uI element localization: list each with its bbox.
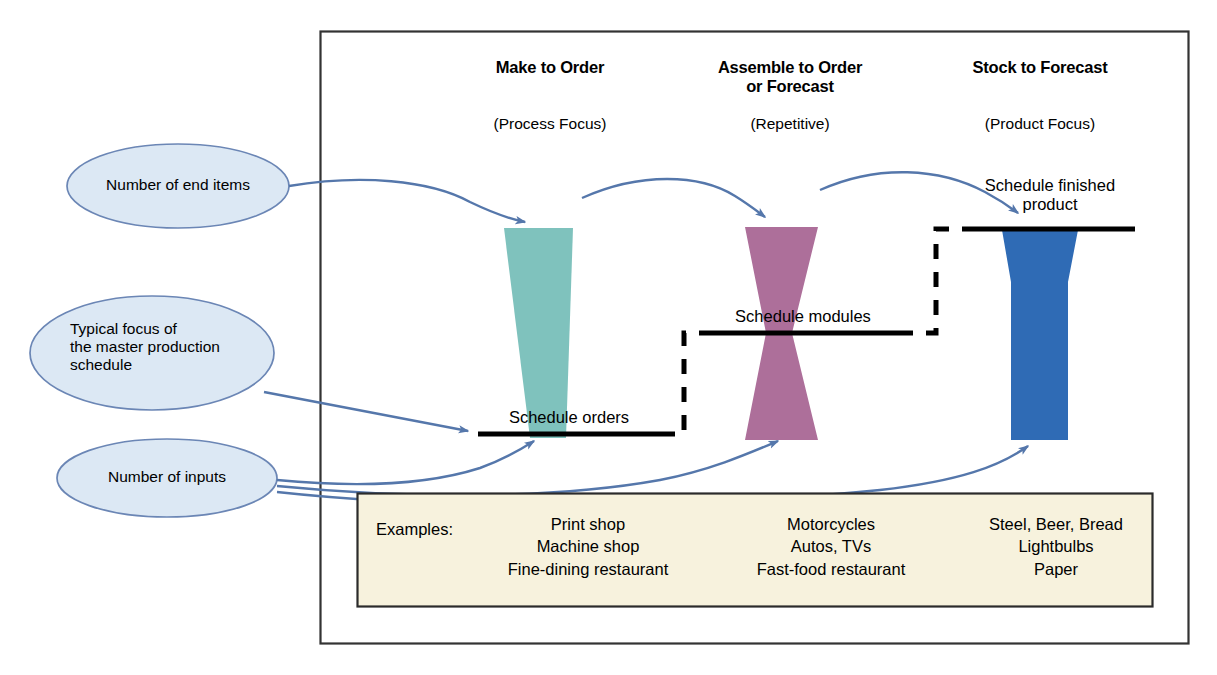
- shape-make-to-order-funnel: [504, 228, 573, 438]
- examples-column-stock-to-forecast: Steel, Beer, Bread Lightbulbs Paper: [960, 513, 1152, 580]
- callout-label-end-items: Number of end items: [68, 176, 288, 194]
- examples-column-make-to-order: Print shop Machine shop Fine-dining rest…: [472, 513, 704, 580]
- shape-stock-to-forecast-funnel: [1002, 230, 1078, 440]
- arrow-make-to-order-to-assemble: [582, 179, 765, 217]
- column-subtitle-assemble-to-order: (Repetitive): [690, 115, 890, 133]
- label-schedule-finished-product: Schedule finished product: [955, 176, 1145, 214]
- arrow-inputs-to-assemble: [277, 441, 778, 495]
- arrow-mps-focus-to-schedule-orders: [264, 392, 468, 431]
- column-title-assemble-to-order: Assemble to Order or Forecast: [690, 58, 890, 96]
- examples-column-assemble-to-order: Motorcycles Autos, TVs Fast-food restaur…: [722, 513, 940, 580]
- label-schedule-modules: Schedule modules: [708, 307, 898, 326]
- examples-heading: Examples:: [376, 520, 453, 539]
- arrow-end-items-to-make-to-order: [289, 180, 525, 222]
- dashed-bracket-orders-to-modules: [660, 333, 710, 434]
- column-title-make-to-order: Make to Order: [460, 58, 640, 77]
- column-title-stock-to-forecast: Stock to Forecast: [940, 58, 1140, 77]
- label-schedule-orders: Schedule orders: [478, 408, 660, 427]
- figure-canvas: Make to Order (Process Focus) Assemble t…: [0, 0, 1217, 675]
- arrow-inputs-to-make-to-order: [277, 441, 534, 484]
- column-subtitle-stock-to-forecast: (Product Focus): [940, 115, 1140, 133]
- dashed-bracket-modules-to-finished: [898, 229, 963, 333]
- column-subtitle-make-to-order: (Process Focus): [460, 115, 640, 133]
- callout-label-mps-focus: Typical focus of the master production s…: [70, 320, 300, 374]
- callout-label-inputs: Number of inputs: [57, 468, 277, 486]
